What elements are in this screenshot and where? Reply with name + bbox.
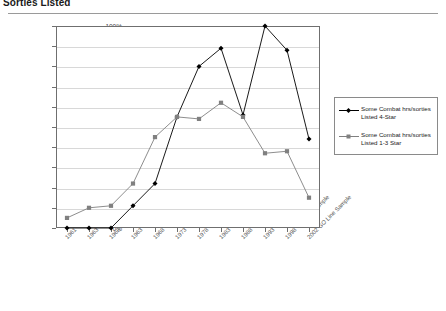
data-point[interactable] (219, 101, 223, 105)
data-point[interactable] (241, 115, 245, 119)
chart-series-layer (56, 26, 320, 228)
data-point[interactable] (153, 135, 157, 139)
data-point[interactable] (307, 137, 312, 142)
diamond-icon (346, 108, 351, 113)
data-point[interactable] (175, 115, 179, 119)
data-point[interactable] (285, 149, 289, 153)
title-divider (8, 13, 438, 14)
legend-label-line1: Some Combat hrs/sorties (361, 105, 431, 112)
data-point[interactable] (109, 204, 113, 208)
data-point[interactable] (87, 206, 91, 210)
data-point[interactable] (65, 216, 69, 220)
legend-label-line2: Listed 1-3 Star (361, 139, 401, 146)
legend-marker-diamond-icon (339, 106, 359, 116)
y-tick-mark (52, 228, 56, 229)
data-point[interactable] (131, 181, 135, 185)
legend-item-4-star[interactable]: Some Combat hrs/sorties Listed 4-Star (339, 105, 437, 120)
page-title: Sorties Listed (3, 0, 71, 8)
chart-legend: Some Combat hrs/sorties Listed 4-Star So… (334, 97, 438, 155)
data-point[interactable] (307, 196, 311, 200)
series-line-1 (67, 103, 309, 218)
legend-label-4-star: Some Combat hrs/sorties Listed 4-Star (361, 105, 431, 120)
data-point[interactable] (263, 151, 267, 155)
legend-label-line1: Some Combat hrs/sorties (361, 131, 431, 138)
data-point[interactable] (197, 117, 201, 121)
legend-item-1-3-star[interactable]: Some Combat hrs/sorties Listed 1-3 Star (339, 131, 437, 146)
legend-label-1-3-star: Some Combat hrs/sorties Listed 1-3 Star (361, 131, 431, 146)
legend-label-line2: Listed 4-Star (361, 113, 396, 120)
legend-marker-square-icon (339, 132, 359, 142)
series-line-0 (67, 26, 309, 228)
square-icon (346, 134, 351, 139)
